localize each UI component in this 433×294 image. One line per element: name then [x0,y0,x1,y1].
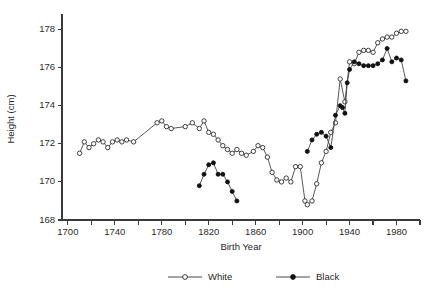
x-tick-label: 1940 [339,226,360,237]
data-point [329,130,333,134]
data-point [169,126,173,130]
data-point [394,31,398,35]
data-point [235,199,239,203]
data-point [305,149,309,153]
data-point [399,58,403,62]
data-point [362,64,366,68]
x-tick-label: 1980 [386,226,407,237]
data-point [265,155,269,159]
data-point [310,199,314,203]
height-by-birth-year-line-chart: 168170172174176178 170017401780182018601… [0,0,433,294]
x-tick-label: 1700 [57,226,78,237]
data-point [319,161,323,165]
data-point [395,56,399,60]
data-point [96,138,100,142]
data-point [207,163,211,167]
x-axis-title: Birth Year [220,241,261,252]
data-point [315,132,319,136]
data-point [221,172,225,176]
data-point [324,149,328,153]
data-point [345,81,349,85]
data-point [256,143,260,147]
data-point [343,111,347,115]
data-point [376,62,380,66]
data-point [197,184,201,188]
y-tick-label: 176 [39,61,55,72]
data-point [371,50,375,54]
legend-label: White [208,271,232,282]
data-point [101,140,105,144]
data-point [91,142,95,146]
x-tick-label: 1900 [292,226,313,237]
data-point [399,29,403,33]
data-point [380,37,384,41]
x-tick-label: 1780 [151,226,172,237]
y-tick-label: 170 [39,175,55,186]
data-point [211,161,215,165]
legend-marker-open-circle-icon [183,275,188,280]
data-point [230,189,234,193]
data-point [315,182,319,186]
y-tick-label: 174 [39,99,55,110]
data-point [343,100,347,104]
y-tick-label: 168 [39,214,55,225]
data-point [251,149,255,153]
data-point [310,138,314,142]
data-point [338,77,342,81]
data-point [106,145,110,149]
data-point [197,126,201,130]
data-point [366,48,370,52]
data-point [275,178,279,182]
data-point [124,138,128,142]
data-point [341,106,345,110]
data-point [298,164,302,168]
data-point [120,140,124,144]
legend-label: Black [316,271,339,282]
data-point [348,67,352,71]
data-point [270,170,274,174]
data-point [293,164,297,168]
data-point [202,172,206,176]
data-point [244,153,248,157]
data-point [347,60,351,64]
data-point [352,60,356,64]
data-point [239,151,243,155]
data-point [324,134,328,138]
data-point [164,124,168,128]
data-point [357,62,361,66]
data-point [155,121,159,125]
data-point [261,145,265,149]
data-point [216,138,220,142]
data-point [284,176,288,180]
data-point [279,180,283,184]
legend-marker-filled-circle-icon [291,275,296,280]
data-point [216,172,220,176]
data-point [87,145,91,149]
data-point [385,46,389,50]
data-point [366,64,370,68]
data-point [77,151,81,155]
data-point [390,60,394,64]
data-point [226,180,230,184]
data-point [333,113,337,117]
data-point [319,130,323,134]
data-point [202,119,206,123]
data-point [235,147,239,151]
data-point [207,130,211,134]
x-tick-label: 1820 [198,226,219,237]
y-tick-label: 172 [39,137,55,148]
data-point [305,203,309,207]
data-point [357,50,361,54]
data-point [404,29,408,33]
data-point [115,138,119,142]
data-point [131,140,135,144]
data-point [211,132,215,136]
data-point [183,124,187,128]
data-point [160,119,164,123]
data-point [329,146,333,150]
data-point [221,143,225,147]
data-point [361,48,365,52]
data-point [376,41,380,45]
data-point [390,35,394,39]
data-point [380,58,384,62]
